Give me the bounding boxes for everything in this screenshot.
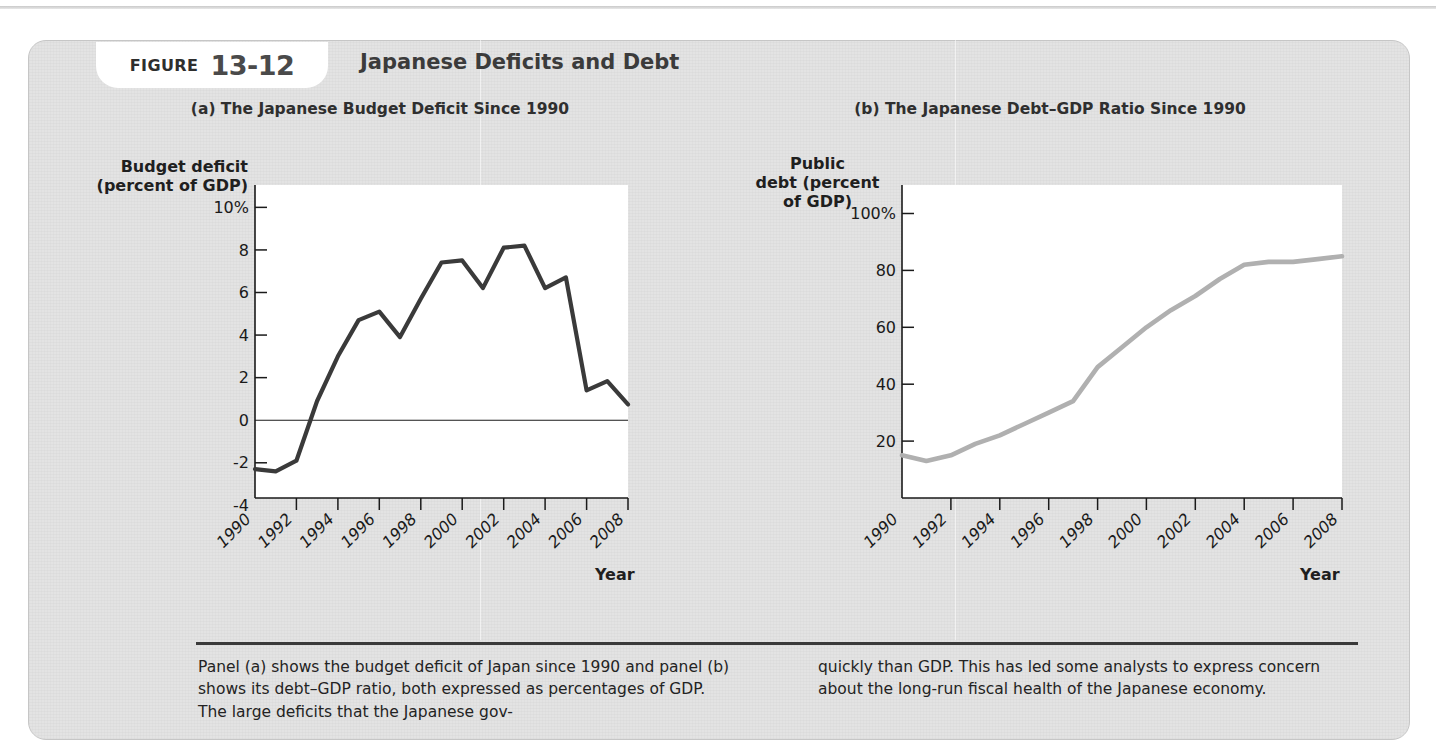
figure-number-tab: FIGURE 13-12 [96,42,328,88]
panel-a-x-ticks [296,498,628,510]
svg-text:100%: 100% [850,204,896,223]
caption-left-column: Panel (a) shows the budget deficit of Ja… [198,656,738,723]
svg-text:1992: 1992 [254,509,296,551]
panel-b-series [902,256,1342,461]
figure-number: 13-12 [210,50,294,81]
panel-b-x-ticks [951,498,1342,510]
svg-text:1996: 1996 [1006,509,1048,551]
svg-text:2002: 2002 [1153,509,1195,551]
svg-text:4: 4 [239,326,249,345]
panel-a-y-ticks [255,207,267,462]
svg-text:20: 20 [876,432,896,451]
panel-b-plot: 100% 80 60 40 20 1990 1992 1 [840,180,1420,600]
panel-a: (a) The Japanese Budget Deficit Since 19… [60,100,700,118]
panel-b-y-tick-labels: 100% 80 60 40 20 [850,204,896,451]
panel-a-x-axis-title: Year [595,565,635,584]
svg-text:2: 2 [239,368,249,387]
panel-b-caption: (b) The Japanese Debt–GDP Ratio Since 19… [700,100,1400,118]
svg-text:10%: 10% [213,198,249,217]
panel-a-x-tick-labels: 1990 1992 1994 1996 1998 2000 2002 2004 … [213,509,628,551]
svg-text:1994: 1994 [296,509,338,551]
svg-text:80: 80 [876,261,896,280]
figure-title: Japanese Deficits and Debt [360,50,679,74]
svg-text:2004: 2004 [1202,509,1244,551]
svg-text:1998: 1998 [1055,509,1097,551]
svg-text:2000: 2000 [420,509,462,551]
panel-b-svg: 100% 80 60 40 20 1990 1992 1 [840,180,1420,600]
caption-right-column: quickly than GDP. This has led some anal… [818,656,1358,701]
panel-a-series [255,246,628,472]
svg-text:60: 60 [876,318,896,337]
svg-text:2006: 2006 [1251,509,1293,551]
panel-a-caption: (a) The Japanese Budget Deficit Since 19… [60,100,700,118]
svg-text:1996: 1996 [337,509,379,551]
panel-b-y-ticks [902,214,914,442]
panel-a-svg: 10% 8 6 4 2 0 -2 -4 [150,180,730,600]
svg-text:2006: 2006 [544,509,586,551]
panel-a-plot: 10% 8 6 4 2 0 -2 -4 [150,180,730,600]
figure-label: FIGURE [130,56,199,75]
svg-text:0: 0 [239,411,249,430]
svg-text:1998: 1998 [378,509,420,551]
panel-b: (b) The Japanese Debt–GDP Ratio Since 19… [700,100,1400,118]
svg-text:2008: 2008 [1300,509,1342,551]
svg-text:1992: 1992 [909,509,951,551]
panel-b-x-axis-title: Year [1300,565,1340,584]
svg-text:-2: -2 [233,453,249,472]
svg-text:1990: 1990 [860,509,902,551]
panel-b-x-tick-labels: 1990 1992 1994 1996 1998 2000 2002 2004 … [860,509,1342,551]
page-top-rule [0,6,1436,9]
svg-text:1990: 1990 [213,509,255,551]
svg-text:2004: 2004 [503,509,545,551]
svg-text:40: 40 [876,375,896,394]
svg-text:2002: 2002 [461,509,503,551]
panel-a-y-tick-labels: 10% 8 6 4 2 0 -2 -4 [213,198,249,515]
svg-text:6: 6 [239,283,249,302]
svg-text:1994: 1994 [957,509,999,551]
caption-rule [196,642,1358,645]
svg-text:2000: 2000 [1104,509,1146,551]
svg-text:8: 8 [239,241,249,260]
svg-text:2008: 2008 [586,509,628,551]
